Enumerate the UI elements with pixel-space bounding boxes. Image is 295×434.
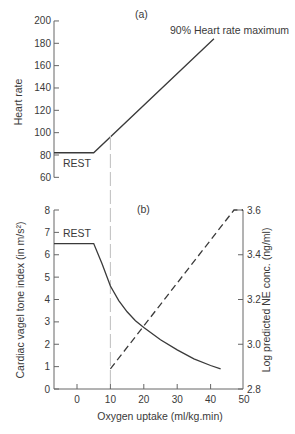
y-tick-label: 1	[44, 361, 50, 372]
y-tick-label: 3	[44, 316, 50, 327]
x-tick-label: 40	[205, 394, 217, 405]
y-axis-title-heart-rate: Heart rate	[12, 78, 24, 125]
y-tick-label: 140	[34, 82, 51, 93]
y-axis-title-ne-conc: Log predicted NE conc. (ng/ml)	[260, 228, 272, 373]
chart-b: 012345678 2.83.03.23.43.6 01020304050 Ca…	[14, 205, 272, 423]
y-tick-label: 2	[44, 339, 50, 350]
y-axis-ne-conc: 2.83.03.23.43.6	[238, 205, 261, 395]
y-tick-label: 100	[34, 127, 51, 138]
y-tick-label: 6	[44, 249, 50, 260]
y-tick-label: 5	[44, 272, 50, 283]
heart-rate-line	[54, 39, 214, 153]
x-tick-label: 0	[74, 394, 80, 405]
y-tick-label: 0	[44, 384, 50, 395]
y-tick-label: 120	[34, 105, 51, 116]
figure: (a) (b) 6080100120140160180200 Heart rat…	[0, 0, 295, 434]
ne-conc-dashed-line	[110, 210, 243, 369]
x-tick-label: 20	[138, 394, 150, 405]
y-tick-label: 8	[44, 205, 50, 216]
y2-tick-label: 3.6	[247, 205, 261, 216]
x-tick-label: 30	[172, 394, 184, 405]
rest-label-a: REST	[63, 157, 92, 169]
y-tick-label: 7	[44, 227, 50, 238]
x-tick-label: 50	[238, 394, 250, 405]
y-tick-label: 160	[34, 60, 51, 71]
y-tick-label: 200	[34, 15, 51, 26]
panel-a-label: (a)	[135, 8, 148, 20]
vagal-tone-curve	[54, 244, 221, 369]
y-axis-vagal-tone: 012345678	[44, 205, 59, 395]
x-axis-oxygen-uptake: 01020304050	[54, 384, 250, 405]
rest-label-b: REST	[63, 227, 92, 239]
panel-b-label: (b)	[137, 203, 150, 215]
y-tick-label: 60	[40, 172, 52, 183]
hr-max-label: 90% Heart rate maximum	[170, 24, 289, 36]
y-tick-label: 4	[44, 294, 50, 305]
y-axis-title-vagal-tone: Cardiac vagel tone index (in m/s²)	[14, 222, 26, 379]
x-axis-title: Oxygen uptake (ml/kg.min)	[97, 410, 222, 422]
chart-a: 6080100120140160180200 Heart rate REST 9…	[12, 15, 289, 182]
y-tick-label: 180	[34, 38, 51, 49]
y-tick-label: 80	[40, 150, 52, 161]
y-axis-heart-rate: 6080100120140160180200	[34, 15, 59, 182]
x-tick-label: 10	[105, 394, 117, 405]
y2-tick-label: 2.8	[247, 384, 261, 395]
